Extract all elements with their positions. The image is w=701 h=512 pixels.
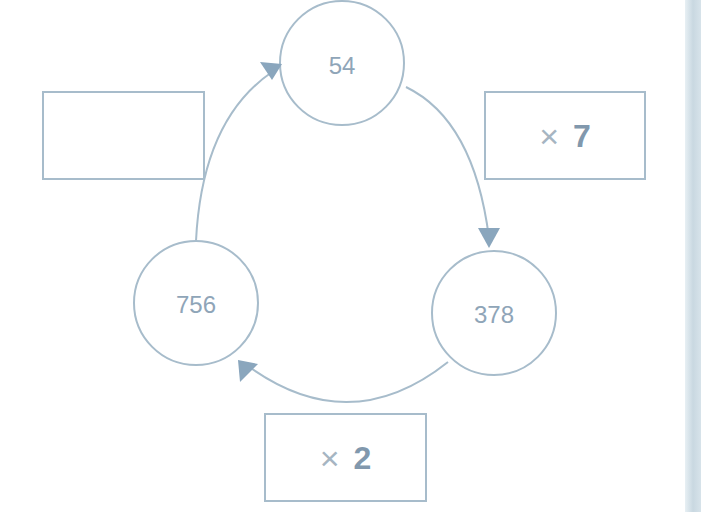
times-icon: ×	[539, 119, 559, 153]
node-right-value: 378	[434, 300, 554, 330]
node-top-value: 54	[282, 51, 402, 81]
operation-box-times-7: × 7	[484, 91, 646, 180]
arrow-top-to-right	[406, 87, 489, 238]
operand-value: 7	[573, 120, 591, 152]
arrowhead-right	[478, 228, 500, 248]
operand-value: 2	[354, 442, 372, 474]
operation-box-times-2: × 2	[264, 413, 427, 502]
arrow-right-to-left	[248, 362, 448, 402]
answer-box-empty[interactable]	[42, 91, 205, 180]
times-icon: ×	[320, 441, 340, 475]
arrow-left-to-top	[196, 72, 272, 241]
node-left-value: 756	[136, 290, 256, 320]
